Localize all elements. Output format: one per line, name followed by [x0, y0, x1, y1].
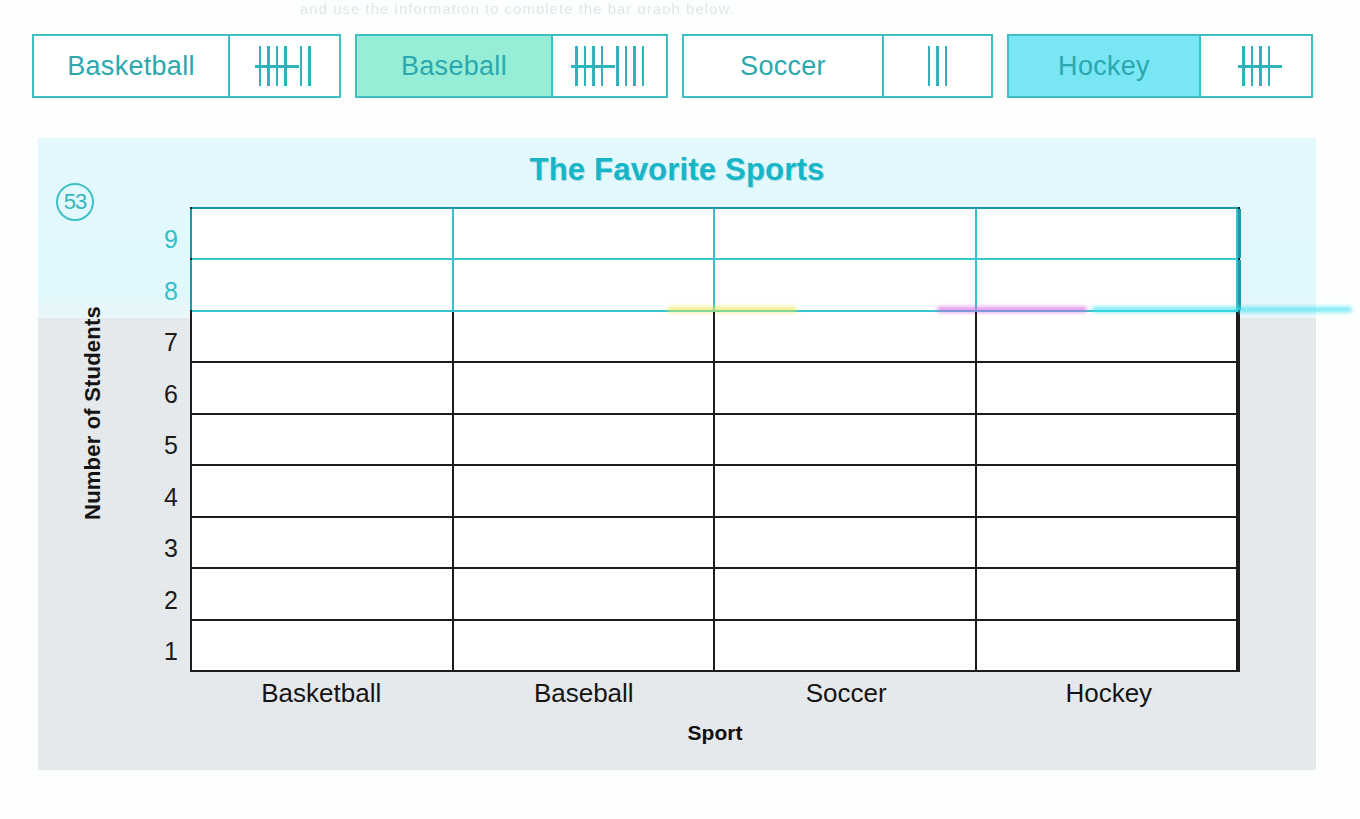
grid-cell[interactable] [454, 621, 716, 670]
y-tick-label: 5 [150, 433, 192, 458]
tally-tick-icon [936, 46, 939, 86]
tally-tick-icon [308, 46, 311, 86]
grid-cell[interactable] [977, 569, 1239, 618]
grid-cell[interactable] [715, 312, 977, 361]
tally-sport-name: Basketball [34, 36, 230, 96]
grid-cell[interactable] [454, 466, 716, 515]
grid-frame-segment [190, 209, 193, 258]
tally-row: Baseball [355, 34, 668, 98]
grid-cell[interactable] [715, 621, 977, 670]
grid-cell[interactable] [715, 466, 977, 515]
grid-cell[interactable] [192, 466, 454, 515]
tally-table: BasketballBaseballSoccerHockey [32, 34, 1328, 98]
grid-cell[interactable] [454, 518, 716, 567]
y-tick-label: 8 [150, 279, 192, 304]
tally-row: Soccer [682, 34, 993, 98]
grid-cell[interactable] [977, 518, 1239, 567]
grid-cell[interactable] [192, 569, 454, 618]
grid-row-2: 2 [192, 569, 1238, 620]
tally-tick-icon [284, 46, 287, 86]
grid-cell[interactable] [715, 518, 977, 567]
y-tick-label: 7 [150, 330, 192, 355]
bar-graph-grid[interactable]: 987654321 [190, 207, 1240, 672]
grid-cell[interactable] [192, 621, 454, 670]
tally-sport-name: Hockey [1009, 36, 1201, 96]
y-tick-label: 6 [150, 382, 192, 407]
tally-tick-icon [633, 46, 636, 86]
tally-remainder-icon [616, 46, 644, 86]
grid-row-4: 4 [192, 466, 1238, 517]
tally-remainder-icon [928, 46, 948, 86]
grid-cell[interactable] [192, 209, 454, 258]
grid-row-6: 6 [192, 363, 1238, 414]
grid-cell[interactable] [977, 209, 1239, 258]
tally-tick-icon [625, 46, 628, 86]
y-axis-label: Number of Students [80, 283, 106, 543]
grid-row-5: 5 [192, 415, 1238, 466]
grid-cell[interactable] [977, 621, 1239, 670]
grid-cell[interactable] [715, 569, 977, 618]
tally-tick-icon [1268, 46, 1271, 86]
worksheet-page: and use the information to complete the … [0, 0, 1360, 819]
x-axis-label: Sport [190, 721, 1240, 745]
tally-row: Basketball [32, 34, 341, 98]
cut-off-instruction-text: and use the information to complete the … [0, 0, 1360, 14]
grid-cell[interactable] [977, 363, 1239, 412]
tally-tick-icon [267, 46, 270, 86]
grid-cell[interactable] [977, 312, 1239, 361]
grid-row-1: 1 [192, 621, 1238, 672]
grid-cell[interactable] [977, 260, 1239, 309]
grid-cell[interactable] [192, 363, 454, 412]
tally-tick-icon [259, 46, 262, 86]
tally-remainder-icon [300, 46, 311, 86]
grid-cell[interactable] [454, 363, 716, 412]
grid-row-7: 7 [192, 312, 1238, 363]
grid-cell[interactable] [454, 209, 716, 258]
tally-tick-icon [945, 46, 948, 86]
grid-cell[interactable] [715, 260, 977, 309]
tally-row: Hockey [1007, 34, 1313, 98]
grid-cell[interactable] [977, 415, 1239, 464]
tally-group-of-five-icon [575, 46, 603, 86]
grid-cell[interactable] [192, 312, 454, 361]
grid-cell[interactable] [454, 569, 716, 618]
tally-marks-cell [553, 36, 666, 96]
grid-cell[interactable] [715, 363, 977, 412]
grid-frame-segment [1238, 260, 1241, 309]
tally-group-of-five-icon [1242, 46, 1270, 86]
tally-tick-icon [575, 46, 578, 86]
grid-cell[interactable] [192, 260, 454, 309]
tally-tick-icon [584, 46, 587, 86]
y-tick-label: 3 [150, 536, 192, 561]
x-tick-label: Basketball [190, 678, 453, 709]
tally-tick-icon [616, 46, 619, 86]
bar-graph-card: 53 The Favorite Sports Number of Student… [38, 138, 1316, 770]
grid-cell[interactable] [715, 209, 977, 258]
problem-number-badge: 53 [56, 183, 94, 221]
y-tick-label: 4 [150, 485, 192, 510]
tally-tick-icon [1259, 46, 1262, 86]
y-tick-label: 1 [150, 639, 192, 664]
tally-tick-icon [276, 46, 279, 86]
x-axis-tick-labels: BasketballBaseballSoccerHockey [190, 678, 1240, 709]
tally-sport-name: Baseball [357, 36, 553, 96]
grid-cell[interactable] [192, 415, 454, 464]
tally-tick-icon [928, 46, 931, 86]
tally-tick-icon [601, 46, 604, 86]
page-title: The Favorite Sports [38, 152, 1316, 188]
grid-cell[interactable] [454, 415, 716, 464]
tally-tick-icon [642, 46, 645, 86]
x-tick-label: Soccer [715, 678, 978, 709]
grid-cell[interactable] [454, 260, 716, 309]
grid-cell[interactable] [977, 466, 1239, 515]
grid-cell[interactable] [454, 312, 716, 361]
grid-frame-segment [190, 260, 193, 309]
tally-sport-name: Soccer [684, 36, 884, 96]
grid-cell[interactable] [715, 415, 977, 464]
grid-row-3: 3 [192, 518, 1238, 569]
tally-tick-icon [1251, 46, 1254, 86]
tally-tick-icon [1242, 46, 1245, 86]
tally-marks-cell [1201, 36, 1311, 96]
grid-frame-segment [1238, 209, 1241, 258]
grid-cell[interactable] [192, 518, 454, 567]
